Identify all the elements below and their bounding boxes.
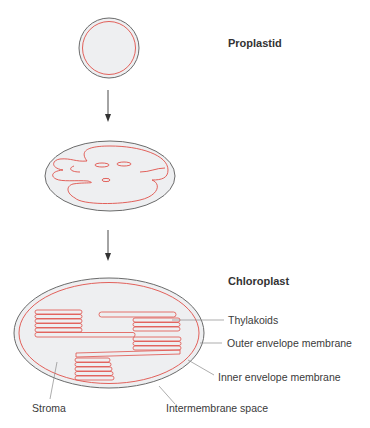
chloroplast-drawing bbox=[14, 278, 204, 388]
thylakoids-label: Thylakoids bbox=[228, 315, 278, 326]
arrow-down-icon bbox=[105, 230, 111, 261]
proplastid-title: Proplastid bbox=[228, 38, 282, 49]
arrow-down-icon bbox=[105, 90, 111, 122]
proplastid-drawing bbox=[79, 18, 139, 78]
inner-membrane-label: Inner envelope membrane bbox=[218, 372, 341, 383]
developing-plastid-drawing bbox=[45, 141, 175, 211]
intermembrane-space-label: Intermembrane space bbox=[166, 403, 268, 414]
chloroplast-title: Chloroplast bbox=[228, 276, 289, 287]
outer-membrane-label: Outer envelope membrane bbox=[227, 338, 352, 349]
stroma-label: Stroma bbox=[32, 403, 66, 414]
chloroplast-development-diagram bbox=[0, 0, 370, 428]
